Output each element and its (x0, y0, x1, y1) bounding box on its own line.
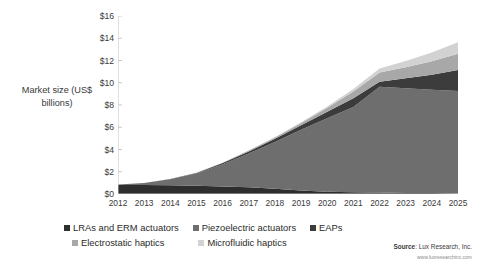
legend-swatch-icon (198, 240, 204, 246)
plot-area (118, 16, 458, 194)
y-tick-label: $8 (86, 100, 114, 110)
x-tick-label: 2019 (292, 198, 311, 208)
x-tick-label: 2015 (187, 198, 206, 208)
x-tick-label: 2018 (266, 198, 285, 208)
source-line: Source: Lux Research, Inc. (393, 243, 472, 250)
legend-item-label: EAPs (319, 222, 342, 233)
x-tick-label: 2014 (161, 198, 180, 208)
legend-swatch-icon (64, 225, 70, 231)
source-attribution: Source: Lux Research, Inc. www.luxresear… (393, 240, 472, 261)
x-tick-label: 2012 (109, 198, 128, 208)
y-axis-tick-labels: $0$2$4$6$8$10$12$14$16 (86, 16, 114, 194)
x-tick-label: 2024 (423, 198, 442, 208)
legend-item-label: Piezoelectric actuators (202, 222, 296, 233)
x-tick-label: 2021 (344, 198, 363, 208)
y-tick-label: $12 (86, 56, 114, 66)
y-tick-label: $16 (86, 11, 114, 21)
source-url: www.luxresearchinc.com (393, 253, 472, 262)
y-tick-label: $10 (86, 78, 114, 88)
x-tick-label: 2017 (239, 198, 258, 208)
area-series (118, 87, 458, 194)
legend-item[interactable]: Electrostatic haptics (72, 237, 164, 248)
y-tick-label: $14 (86, 33, 114, 43)
legend-swatch-icon (193, 225, 199, 231)
y-tick-label: $2 (86, 167, 114, 177)
source-text: Lux Research, Inc. (419, 243, 472, 250)
x-axis-tick-labels: 2012201320142015201620172018201920202021… (118, 198, 458, 212)
x-tick-label: 2016 (213, 198, 232, 208)
y-tick-label: $6 (86, 122, 114, 132)
legend-item-label: Electrostatic haptics (81, 237, 164, 248)
legend-item-label: LRAs and ERM actuators (73, 222, 179, 233)
legend-item[interactable]: Microfluidic haptics (198, 237, 286, 248)
x-tick-label: 2022 (370, 198, 389, 208)
legend-item[interactable]: Piezoelectric actuators (193, 222, 296, 233)
x-tick-label: 2020 (318, 198, 337, 208)
stacked-area-plot (118, 16, 458, 194)
x-tick-label: 2023 (396, 198, 415, 208)
legend-swatch-icon (310, 225, 316, 231)
legend-row-1: LRAs and ERM actuatorsPiezoelectric actu… (0, 220, 478, 235)
legend-swatch-icon (72, 240, 78, 246)
y-tick-label: $4 (86, 145, 114, 155)
source-label: Source (393, 243, 415, 250)
chart-figure: Market size (US$ billions) $0$2$4$6$8$10… (0, 0, 478, 269)
x-tick-label: 2013 (135, 198, 154, 208)
legend-item[interactable]: LRAs and ERM actuators (64, 222, 179, 233)
x-tick-label: 2025 (449, 198, 468, 208)
legend-item[interactable]: EAPs (310, 222, 342, 233)
legend-item-label: Microfluidic haptics (207, 237, 286, 248)
